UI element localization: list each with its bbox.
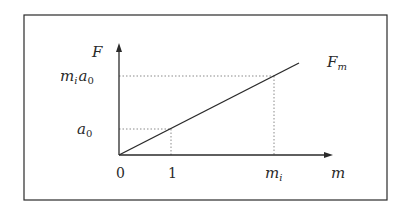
x-tick-0: 0: [116, 165, 125, 181]
x-tick-1: 1: [168, 165, 177, 181]
x-axis-label: m: [331, 164, 345, 182]
diagram-canvas: F mia0 a0 0 1 mi m Fm: [0, 0, 397, 209]
y-axis-label: F: [91, 43, 103, 61]
